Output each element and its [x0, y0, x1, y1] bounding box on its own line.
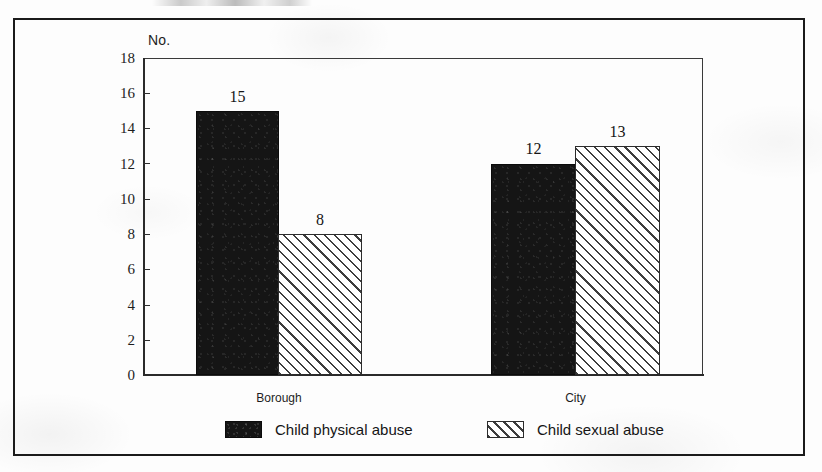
y-tick-label-4: 4 — [101, 298, 135, 313]
y-tick-label-18: 18 — [101, 51, 135, 66]
bar-city-child-sexual-abuse[interactable] — [575, 146, 660, 375]
bar-city-child-physical-abuse[interactable] — [491, 164, 576, 375]
y-tick-label-10: 10 — [101, 192, 135, 207]
y-tick-label-12: 12 — [101, 157, 135, 172]
y-tick-label-0: 0 — [101, 368, 135, 383]
y-tick-mark-2 — [143, 340, 150, 341]
bar-value-city-physical: 12 — [491, 141, 576, 157]
x-tick-label-borough: Borough — [196, 392, 362, 404]
y-tick-label-14: 14 — [101, 121, 135, 136]
y-tick-mark-14 — [143, 128, 150, 129]
y-tick-mark-10 — [143, 199, 150, 200]
legend-swatch-hatched-icon — [487, 421, 524, 438]
y-tick-label-6: 6 — [101, 262, 135, 277]
y-tick-label-2: 2 — [101, 333, 135, 348]
x-tick-label-city: City — [491, 392, 660, 404]
y-tick-mark-12 — [143, 163, 150, 164]
legend-label-child-sexual-abuse: Child sexual abuse — [537, 422, 664, 437]
bar-value-borough-physical: 15 — [196, 89, 279, 105]
y-tick-mark-4 — [143, 305, 150, 306]
bar-borough-child-physical-abuse[interactable] — [196, 111, 279, 375]
y-tick-label-8: 8 — [101, 227, 135, 242]
bar-chart-figure: No. 18 16 14 12 10 8 6 4 2 0 15 8 12 13 … — [0, 0, 822, 472]
y-axis-line — [143, 58, 145, 376]
y-tick-mark-8 — [143, 234, 150, 235]
chart-legend: Child physical abuse Child sexual abuse — [143, 418, 704, 444]
y-tick-mark-16 — [143, 93, 150, 94]
bar-borough-child-sexual-abuse[interactable] — [278, 234, 362, 375]
legend-entry-child-physical-abuse[interactable]: Child physical abuse — [225, 418, 413, 440]
legend-entry-child-sexual-abuse[interactable]: Child sexual abuse — [487, 418, 664, 440]
y-tick-label-16: 16 — [101, 86, 135, 101]
bar-value-borough-sexual: 8 — [278, 212, 362, 228]
y-axis-title: No. — [148, 32, 170, 48]
y-tick-mark-6 — [143, 269, 150, 270]
legend-label-child-physical-abuse: Child physical abuse — [275, 422, 413, 437]
legend-swatch-solid-icon — [225, 421, 262, 438]
bar-value-city-sexual: 13 — [575, 124, 660, 140]
